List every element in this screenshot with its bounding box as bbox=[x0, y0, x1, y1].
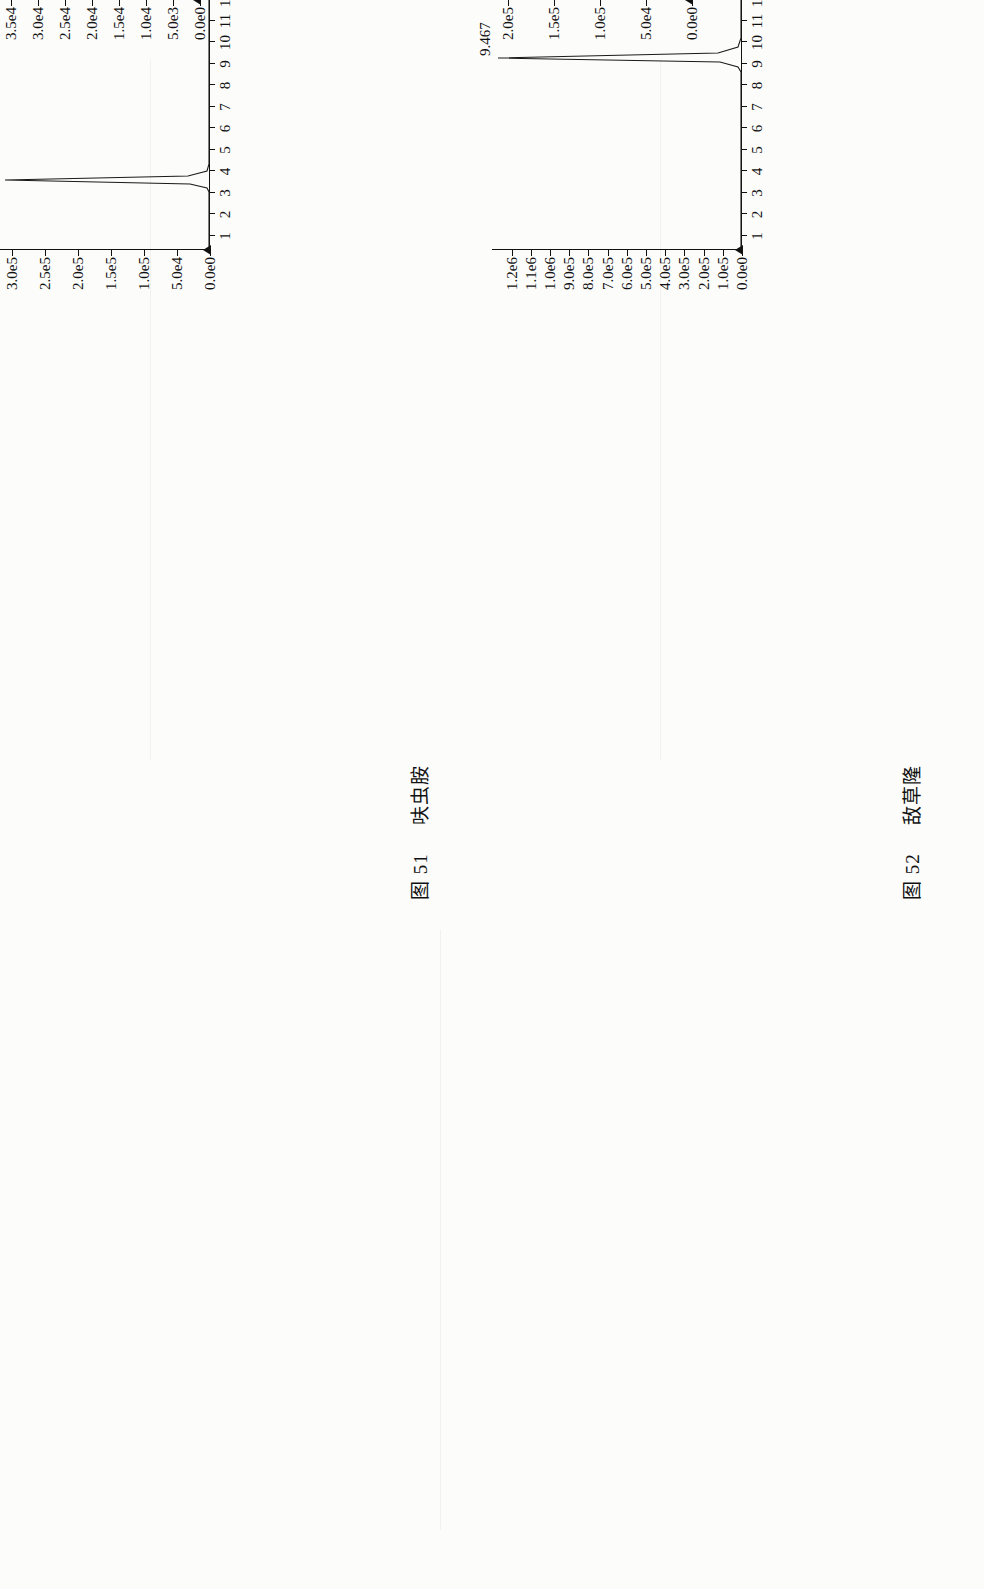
x-tick-label: 8 bbox=[750, 82, 765, 90]
y-tick-label: 1.0e5 bbox=[715, 257, 730, 290]
y-tick bbox=[588, 250, 589, 256]
y-tick bbox=[550, 250, 551, 256]
figure-51-caption-name: 呋虫胺 bbox=[409, 765, 431, 825]
x-tick bbox=[742, 214, 747, 215]
figure-52-caption-name: 敌草隆 bbox=[901, 765, 923, 825]
y-tick-label: 2.0e5 bbox=[696, 257, 711, 290]
x-tick-label: 10 bbox=[218, 35, 233, 50]
figure-51-caption-number: 图 51 bbox=[410, 853, 431, 900]
x-tick-label: 4 bbox=[218, 168, 233, 176]
x-tick-label: 9 bbox=[218, 60, 233, 68]
x-tick-label: 3 bbox=[750, 189, 765, 197]
peak-label-rt: 9.467 bbox=[478, 22, 493, 56]
x-tick-label: 12 bbox=[750, 0, 765, 7]
x-tick-label: 7 bbox=[218, 103, 233, 111]
x-tick bbox=[210, 128, 215, 129]
y-tick-label: 4.0e5 bbox=[658, 257, 673, 290]
chart-51-eic-title: 提取离子流色谱图 bbox=[52, 0, 73, 250]
chart-51-eic-xlabel: 时间/min bbox=[30, 0, 51, 250]
y-tick-label: 0.0e0 bbox=[735, 257, 750, 290]
chart-52-eic-xlabel: 时间/min bbox=[522, 0, 543, 250]
y-tick-label: 2.0e5 bbox=[71, 257, 86, 290]
x-tick-label: 9 bbox=[750, 60, 765, 68]
x-tick-label: 11 bbox=[750, 14, 765, 28]
x-tick bbox=[742, 128, 747, 129]
x-tick bbox=[742, 192, 747, 193]
x-tick-label: 6 bbox=[218, 125, 233, 133]
y-tick bbox=[531, 250, 532, 256]
x-tick bbox=[210, 149, 215, 150]
chart-51-eic: 0.0e0 5.0e4 1.0e5 1.5e5 2.0e5 2.5e5 3.0e… bbox=[0, 0, 260, 250]
x-tick bbox=[742, 20, 747, 21]
x-tick-label: 5 bbox=[218, 146, 233, 154]
chart-52-eic: 0.0e01.0e52.0e53.0e54.0e55.0e56.0e57.0e5… bbox=[492, 0, 812, 250]
figure-52: 0.0e0 5.0e4 1.0e5 1.5e5 2.0e5 232.5 233.… bbox=[492, 0, 984, 1589]
y-tick bbox=[665, 250, 666, 256]
x-tick bbox=[210, 85, 215, 86]
x-tick-label: 6 bbox=[750, 125, 765, 133]
y-tick bbox=[569, 250, 570, 256]
y-tick-label: 2.5e5 bbox=[38, 257, 53, 290]
x-tick-label: 12 bbox=[218, 0, 233, 7]
x-tick bbox=[742, 106, 747, 107]
x-tick-label: 8 bbox=[218, 82, 233, 90]
x-tick-label: 1 bbox=[218, 232, 233, 240]
y-tick-label: 7.0e5 bbox=[600, 257, 615, 290]
x-tick-label: 10 bbox=[750, 35, 765, 50]
scanned-page: 0.0e0 5.0e3 1.0e4 1.5e4 2.0e4 2.5e4 3.0e… bbox=[0, 0, 984, 1589]
x-tick bbox=[742, 63, 747, 64]
y-tick-label: 1.2e6 bbox=[504, 257, 519, 290]
x-tick bbox=[210, 42, 215, 43]
x-tick-label: 11 bbox=[218, 14, 233, 28]
x-tick bbox=[742, 149, 747, 150]
x-tick-label: 3 bbox=[218, 189, 233, 197]
x-tick bbox=[742, 235, 747, 236]
figure-52-caption-number: 图 52 bbox=[902, 853, 923, 900]
y-tick-label: 1.0e6 bbox=[543, 257, 558, 290]
x-tick-label: 2 bbox=[218, 211, 233, 219]
figure-51: 0.0e0 5.0e3 1.0e4 1.5e4 2.0e4 2.5e4 3.0e… bbox=[0, 0, 492, 1589]
x-tick-label: 1 bbox=[750, 232, 765, 240]
x-tick-label: 7 bbox=[750, 103, 765, 111]
figure-51-caption: 图 51 呋虫胺 bbox=[405, 765, 432, 900]
x-tick bbox=[210, 171, 215, 172]
x-tick bbox=[742, 85, 747, 86]
x-tick bbox=[742, 42, 747, 43]
y-tick-label: 3.0e5 bbox=[5, 257, 20, 290]
y-tick-label: 1.5e5 bbox=[104, 257, 119, 290]
x-tick bbox=[210, 106, 215, 107]
y-tick bbox=[512, 250, 513, 256]
y-tick bbox=[704, 250, 705, 256]
y-tick-label: 5.0e4 bbox=[170, 257, 185, 290]
y-tick-label: 1.1e6 bbox=[523, 257, 538, 290]
y-tick-label: 3.0e5 bbox=[677, 257, 692, 290]
y-tick-label: 6.0e5 bbox=[619, 257, 634, 290]
y-tick-label: 8.0e5 bbox=[581, 257, 596, 290]
chart-52-eic-plot: 0.0e01.0e52.0e53.0e54.0e55.0e56.0e57.0e5… bbox=[492, 0, 742, 250]
x-tick-label: 5 bbox=[750, 146, 765, 154]
y-tick-label: 9.0e5 bbox=[562, 257, 577, 290]
y-tick bbox=[742, 250, 743, 256]
x-tick-label: 4 bbox=[750, 168, 765, 176]
y-tick bbox=[723, 250, 724, 256]
y-tick-label: 0.0e0 bbox=[203, 257, 218, 290]
y-tick bbox=[608, 250, 609, 256]
y-tick bbox=[646, 250, 647, 256]
x-tick bbox=[210, 192, 215, 193]
chart-52-eic-title: 提取离子流色谱图 bbox=[544, 0, 565, 250]
x-tick bbox=[210, 63, 215, 64]
y-tick-label: 5.0e5 bbox=[639, 257, 654, 290]
x-tick bbox=[210, 20, 215, 21]
x-tick-label: 2 bbox=[750, 211, 765, 219]
x-tick bbox=[742, 171, 747, 172]
y-tick bbox=[627, 250, 628, 256]
figure-52-caption: 图 52 敌草隆 bbox=[897, 765, 924, 900]
y-tick-label: 1.0e5 bbox=[137, 257, 152, 290]
x-tick bbox=[210, 235, 215, 236]
chart-51-eic-plot: 0.0e0 5.0e4 1.0e5 1.5e5 2.0e5 2.5e5 3.0e… bbox=[0, 0, 210, 250]
y-tick bbox=[684, 250, 685, 256]
x-tick bbox=[210, 214, 215, 215]
peak-label-rt: 3.704 bbox=[0, 144, 1, 178]
